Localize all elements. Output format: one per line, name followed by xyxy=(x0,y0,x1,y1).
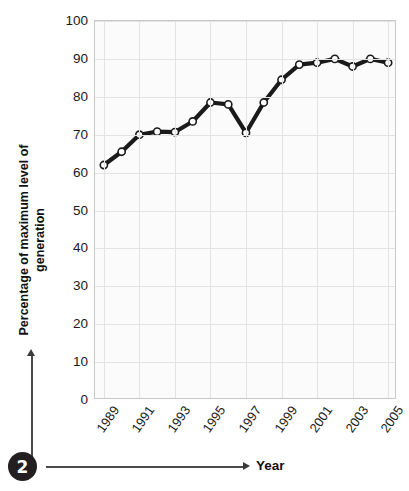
gridline-vertical xyxy=(139,21,140,398)
y-axis-tick-label: 70 xyxy=(52,126,88,141)
data-point-marker xyxy=(118,148,125,155)
y-axis-tick-label: 100 xyxy=(52,13,88,28)
y-axis-title-line1: Percentage of maximum level of xyxy=(17,144,33,335)
x-axis-pointer-line xyxy=(46,466,245,468)
y-axis-pointer-arrow-icon xyxy=(27,349,35,356)
gridline-vertical xyxy=(246,21,247,398)
gridline-vertical xyxy=(353,21,354,398)
figure-number-badge: 2 xyxy=(8,452,37,481)
data-point-marker xyxy=(296,61,303,68)
data-point-marker xyxy=(225,101,232,108)
y-axis-tick-label: 30 xyxy=(52,278,88,293)
y-axis-tick-label: 50 xyxy=(52,202,88,217)
x-axis-tick-labels: 198919911993199519971999200120032005 xyxy=(0,399,409,469)
y-axis-title-line2: generation xyxy=(33,144,49,335)
x-axis-tick-label: 2005 xyxy=(378,403,407,435)
y-axis-tick-label: 40 xyxy=(52,240,88,255)
gridline-vertical xyxy=(388,21,389,398)
x-axis-tick-label: 1999 xyxy=(271,403,300,435)
y-axis-tick-label: 60 xyxy=(52,164,88,179)
y-axis-tick-label: 80 xyxy=(52,88,88,103)
x-axis-tick-label: 1989 xyxy=(93,403,122,435)
y-axis-tick-label: 90 xyxy=(52,50,88,65)
gridline-vertical xyxy=(104,21,105,398)
data-point-marker xyxy=(189,118,196,125)
gridline-vertical xyxy=(282,21,283,398)
plot-area xyxy=(94,20,396,399)
gridline-vertical xyxy=(317,21,318,398)
data-point-marker xyxy=(260,99,267,106)
x-axis-tick-label: 1995 xyxy=(200,403,229,435)
x-axis-tick-label: 2001 xyxy=(306,403,335,435)
x-axis-tick-label: 1993 xyxy=(164,403,193,435)
gridline-vertical xyxy=(210,21,211,398)
x-axis-tick-label: 1991 xyxy=(129,403,158,435)
x-axis-tick-label: 1997 xyxy=(235,403,264,435)
x-axis-title: Year xyxy=(256,458,285,473)
gridline-vertical xyxy=(175,21,176,398)
x-axis-tick-label: 2003 xyxy=(342,403,371,435)
y-axis-tick-label: 20 xyxy=(52,316,88,331)
chart-figure: Percentage of maximum level of generatio… xyxy=(0,0,409,491)
x-axis-pointer-arrow-icon xyxy=(243,462,250,470)
y-axis-tick-label: 10 xyxy=(52,354,88,369)
